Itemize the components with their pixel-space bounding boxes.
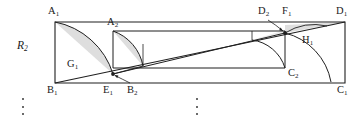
vertical-ellipsis-left	[21, 98, 24, 115]
vertex-label-c2: C2	[288, 68, 299, 79]
figure-canvas	[0, 0, 362, 120]
vertex-label-b1: B1	[47, 85, 58, 96]
vertex-label-d2: D2	[258, 6, 269, 17]
vertex-label-c1: C1	[337, 85, 348, 96]
vertex-label-h1: H1	[302, 35, 313, 46]
inner-rectangle	[113, 31, 285, 68]
point-f1-marker	[283, 31, 287, 35]
arc-d2-c2	[252, 40, 285, 68]
region-label-r2: R2	[17, 40, 28, 52]
vertical-ellipsis-middle	[195, 98, 198, 115]
shaded-sector-middle	[113, 31, 143, 66]
vertex-label-e1: E1	[103, 85, 113, 96]
leader-arrowhead-b2	[115, 75, 119, 78]
vertex-label-a2: A2	[107, 17, 118, 28]
geometry-figure: R2 A1 A2 B1 B2 C1 C2 D1 D2 E1 F1 G1 H1	[0, 0, 362, 120]
vertex-label-a1: A1	[48, 6, 59, 17]
vertex-label-b2: B2	[127, 85, 138, 96]
vertex-label-f1: F1	[282, 6, 292, 17]
point-b2-marker	[111, 72, 115, 76]
vertex-label-d1: D1	[336, 6, 347, 17]
vertex-label-g1: G1	[67, 59, 78, 70]
shaded-sector-left	[55, 22, 113, 74]
